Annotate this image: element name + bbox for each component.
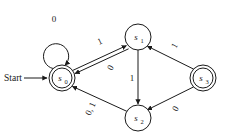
state-node-s3[interactable]: s 3 [190,65,216,91]
state-s1-label: s [134,32,138,42]
state-s3-subscript: 3 [205,78,208,85]
state-s0-outer-circle [49,65,75,91]
state-s1-subscript: 1 [140,37,143,44]
state-s0-subscript: 0 [64,78,67,85]
state-node-s0[interactable]: s 0 [49,65,75,91]
edge-s2-s0 [72,86,127,111]
edge-label-s3-s1: 1 [169,41,180,50]
edge-label-s0-s1: 1 [96,36,104,47]
state-s2-label: s [134,113,138,123]
fsm-diagram: s 0 s 1 s 2 s 3 Start 0 1 0 [0,0,238,140]
edge-label-s2-s0: 0, 1 [83,101,98,117]
fsm-canvas: s 0 s 1 s 2 s 3 Start 0 1 0 [0,0,238,140]
state-s3-label: s [199,73,203,83]
state-s2-subscript: 2 [140,118,143,125]
start-label: Start [4,73,22,83]
state-s3-outer-circle [190,65,216,91]
edge-label-s3-s2: 0 [170,104,181,113]
state-s1-outer-circle [125,24,151,50]
state-s2-outer-circle [125,105,151,131]
edge-s3-s1 [147,46,193,69]
state-s0-label: s [58,73,62,83]
edge-s1-s0 [75,49,129,74]
state-node-s1[interactable]: s 1 [125,24,151,50]
state-node-s2[interactable]: s 2 [125,105,151,131]
edge-label-s1-s2: 1 [130,73,135,83]
edge-label-s1-s0: 0 [105,63,116,72]
edge-s0-s1 [73,46,127,71]
edge-label-s0-s0: 0 [52,14,57,24]
